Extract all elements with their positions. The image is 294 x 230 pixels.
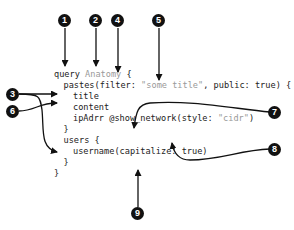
code-literal: Anatomy: [85, 69, 121, 79]
code-token: pastes(filter:: [64, 80, 142, 90]
graphql-anatomy-diagram: query Anatomy {pastes(filter: "some titl…: [0, 0, 294, 230]
callout-6: 6: [6, 105, 19, 118]
callout-8: 8: [268, 143, 281, 156]
callout-2: 2: [89, 14, 102, 27]
code-token: {: [121, 69, 131, 79]
callout-1: 1: [58, 14, 71, 27]
arrow-6: [19, 103, 57, 111]
code-line: }: [64, 124, 69, 135]
callout-7: 7: [268, 106, 281, 119]
code-line: query Anatomy {: [54, 69, 132, 80]
code-token: username(capitalize: true): [73, 146, 208, 156]
code-line: }: [54, 168, 59, 179]
code-token: , public: true) {: [203, 80, 291, 90]
callout-4: 4: [111, 14, 124, 27]
callout-3: 3: [6, 88, 19, 101]
code-token: ipAdrr @show_network(style:: [73, 113, 218, 123]
code-line: content: [73, 102, 109, 113]
code-token: ): [249, 113, 254, 123]
code-token: }: [54, 168, 59, 178]
code-literal: "cidr": [218, 113, 249, 123]
code-line: }: [64, 157, 69, 168]
code-token: }: [64, 157, 69, 167]
code-token: }: [64, 124, 69, 134]
code-line: pastes(filter: "some title", public: tru…: [64, 80, 292, 91]
code-literal: "some title": [141, 80, 203, 90]
code-line: username(capitalize: true): [73, 146, 208, 157]
callout-5: 5: [152, 14, 165, 27]
code-token: users {: [64, 135, 100, 145]
code-token: title: [73, 91, 99, 101]
code-line: title: [73, 91, 99, 102]
code-token: content: [73, 102, 109, 112]
code-token: query: [54, 69, 85, 79]
code-line: ipAdrr @show_network(style: "cidr"): [73, 113, 254, 124]
callout-9: 9: [131, 207, 144, 220]
code-line: users {: [64, 135, 100, 146]
